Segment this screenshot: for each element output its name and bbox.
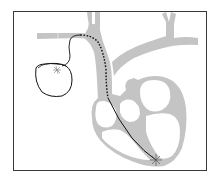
pacemaker-heart-illustration	[0, 0, 222, 185]
superior-vena-cava	[84, 12, 112, 100]
diagram-canvas: Pacemaker with transvenous lead	[0, 0, 222, 185]
lead-subcutaneous	[62, 35, 80, 66]
pacemaker	[36, 63, 72, 96]
aortic-arch	[112, 12, 198, 76]
